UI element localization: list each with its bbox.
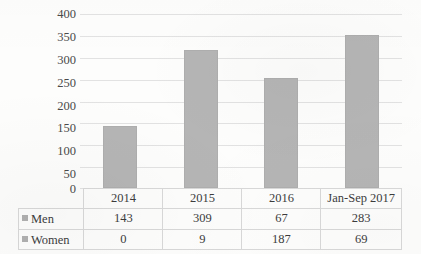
cell-men-2014: 143 — [84, 209, 163, 230]
bar-2014 — [103, 126, 137, 188]
y-axis: 400 350 300 250 200 150 100 50 0 — [24, 14, 76, 189]
legend-swatch-icon — [22, 236, 28, 242]
y-axis-tick-250: 250 — [34, 77, 76, 90]
y-axis-tick-350: 350 — [34, 31, 76, 44]
y-axis-tick-100: 100 — [34, 145, 76, 158]
table-row-women: Women 0 9 187 69 — [19, 229, 402, 250]
cell-women-jan-sep-2017: 69 — [321, 229, 402, 250]
y-axis-tick-150: 150 — [34, 122, 76, 135]
y-axis-tick-200: 200 — [34, 100, 76, 113]
cell-women-2014: 0 — [84, 229, 163, 250]
bar-jan-sep-2017 — [345, 35, 379, 188]
legend-swatch-icon — [22, 215, 28, 221]
cell-men-2015: 309 — [163, 209, 242, 230]
y-axis-tick-50: 50 — [34, 168, 76, 181]
chart-figure: 400 350 300 250 200 150 100 50 0 2014 20… — [0, 0, 421, 254]
table-header-2015: 2015 — [163, 189, 242, 209]
cell-women-2016: 187 — [242, 229, 321, 250]
y-axis-tick-400: 400 — [34, 8, 76, 21]
y-axis-tick-300: 300 — [34, 54, 76, 67]
table-header-2016: 2016 — [242, 189, 321, 209]
legend-label-women: Women — [31, 232, 70, 246]
gridline-400 — [80, 14, 402, 15]
cell-men-2016: 67 — [242, 209, 321, 230]
table-header-row: 2014 2015 2016 Jan-Sep 2017 — [19, 189, 402, 209]
cell-men-jan-sep-2017: 283 — [321, 209, 402, 230]
table-header-jan-sep-2017: Jan-Sep 2017 — [321, 189, 402, 209]
table-row-men: Men 143 309 67 283 — [19, 209, 402, 230]
plot-area — [80, 14, 402, 189]
table-corner-cell — [19, 189, 84, 209]
legend-label-men: Men — [31, 212, 54, 226]
legend-entry-women: Women — [19, 229, 84, 250]
table-header-2014: 2014 — [84, 189, 163, 209]
bar-2016 — [264, 78, 298, 188]
data-table: 2014 2015 2016 Jan-Sep 2017 Men 143 309 … — [18, 188, 402, 250]
bar-2015 — [184, 50, 218, 188]
legend-entry-men: Men — [19, 209, 84, 230]
cell-women-2015: 9 — [163, 229, 242, 250]
